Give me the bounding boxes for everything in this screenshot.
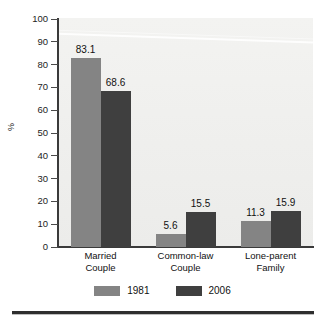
bar-value-label: 83.1 (65, 45, 107, 55)
x-axis-category-label: Lone-parentFamily (220, 250, 321, 273)
bar-chart-figure: % 1009080706050403020100 83.168.65.615.5… (0, 0, 325, 324)
y-axis-tick-label: 90 (8, 37, 48, 47)
category-label-line: Family (220, 262, 321, 274)
y-axis-tick-mark (51, 87, 58, 88)
bar-1981-2 (156, 234, 186, 247)
y-axis-tick-mark (51, 178, 58, 179)
bar-value-label: 15.5 (180, 199, 222, 209)
legend-item-1981: 1981 (94, 286, 149, 296)
y-axis-tick-label: 50 (8, 128, 48, 138)
category-label-line: Lone-parent (220, 250, 321, 262)
scan-artifact-line-secondary (58, 29, 313, 41)
y-axis-tick-label: 40 (8, 151, 48, 161)
y-axis-tick-label: 70 (8, 82, 48, 92)
y-axis-tick-label: 10 (8, 219, 48, 229)
y-axis-tick-label: 0 (8, 242, 48, 252)
chart-legend: 19812006 (0, 286, 325, 296)
y-axis-tick-mark (51, 201, 58, 202)
y-axis-tick-label: 30 (8, 174, 48, 184)
y-axis-tick-mark (51, 247, 58, 248)
y-axis-tick-label: 20 (8, 196, 48, 206)
y-axis-tick-label: 60 (8, 105, 48, 115)
scan-artifact-line (58, 32, 313, 45)
bar-2006-2 (186, 212, 216, 247)
bar-2006-3 (271, 211, 301, 247)
y-axis-tick-mark (51, 133, 58, 134)
legend-item-2006: 2006 (176, 286, 231, 296)
legend-label: 2006 (209, 286, 231, 296)
bar-1981-3 (241, 221, 271, 247)
y-axis-tick-mark (51, 64, 58, 65)
bar-value-label: 68.6 (95, 78, 137, 88)
y-axis-tick-mark (51, 110, 58, 111)
bottom-rule-shadow (12, 314, 314, 315)
y-axis-tick-mark (51, 41, 58, 42)
y-axis-tick-mark (51, 155, 58, 156)
y-axis-tick-mark (51, 224, 58, 225)
legend-swatch-2006 (176, 286, 202, 296)
legend-swatch-1981 (94, 286, 120, 296)
y-axis-tick-label: 80 (8, 60, 48, 70)
y-axis-tick-mark (51, 19, 58, 20)
bar-value-label: 15.9 (265, 198, 307, 208)
legend-label: 1981 (127, 286, 149, 296)
y-axis-tick-label: 100 (8, 14, 48, 24)
bar-2006-1 (101, 91, 131, 247)
